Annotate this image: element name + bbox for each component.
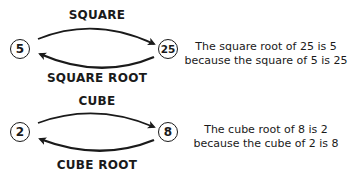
arrows-layer xyxy=(0,0,348,182)
cube-explanation-line1: The cube root of 8 is 2 xyxy=(193,123,338,137)
cube-right-node: 8 xyxy=(158,122,178,142)
square-label: SQUARE xyxy=(69,8,126,22)
cube-root-label: CUBE ROOT xyxy=(57,158,138,172)
square-cube-diagram: SQUARE 5 25 SQUARE ROOT The square root … xyxy=(0,0,348,182)
square-explanation: The square root of 25 is 5 because the s… xyxy=(185,40,348,68)
square-explanation-line2: because the square of 5 is 25 xyxy=(185,54,348,68)
cube-reverse-arrow xyxy=(40,139,154,151)
square-reverse-arrow xyxy=(40,54,154,68)
cube-label: CUBE xyxy=(78,94,115,108)
square-right-node: 25 xyxy=(158,39,178,59)
cube-forward-arrow xyxy=(38,113,154,127)
cube-left-node: 2 xyxy=(10,122,30,142)
square-forward-arrow xyxy=(38,29,154,44)
square-left-node: 5 xyxy=(10,39,30,59)
square-explanation-line1: The square root of 25 is 5 xyxy=(185,40,348,54)
cube-explanation: The cube root of 8 is 2 because the cube… xyxy=(193,123,338,151)
square-root-label: SQUARE ROOT xyxy=(47,71,147,85)
cube-explanation-line2: because the cube of 2 is 8 xyxy=(193,137,338,151)
